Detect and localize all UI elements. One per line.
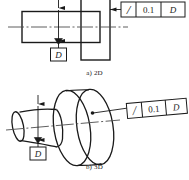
- tolerance-value-2d: 0.1: [143, 5, 154, 15]
- shaft-flange-junction-3d: [57, 110, 63, 148]
- view-3d: D / 0.1 D: [6, 87, 187, 169]
- tolerance-value-3d: 0.1: [148, 104, 160, 115]
- datum-letter-2d: D: [54, 50, 62, 60]
- flange-front-face-3d: [71, 87, 118, 168]
- shaft-end-face-3d: [10, 111, 27, 143]
- caption-3d: b) 3D: [0, 163, 189, 171]
- feature-control-frame-2d: / 0.1 D: [121, 2, 185, 17]
- view-2d: D / 0.1 D: [8, 0, 185, 61]
- datum-letter-3d: D: [34, 149, 42, 159]
- flange-rectangle-2d: [81, 0, 110, 60]
- leader-dot-3d: [91, 111, 95, 115]
- feature-control-frame-3d: / 0.1 D: [126, 98, 187, 118]
- caption-2d: a) 2D: [0, 69, 189, 77]
- drawing-canvas: D / 0.1 D: [0, 0, 189, 180]
- datum-triangle-2d: [55, 39, 63, 45]
- engineering-drawing-sheet: D / 0.1 D: [0, 0, 189, 180]
- flange-back-face-3d: [48, 88, 95, 169]
- datum-reference-2d: D: [169, 5, 177, 15]
- datum-reference-3d: D: [172, 102, 181, 113]
